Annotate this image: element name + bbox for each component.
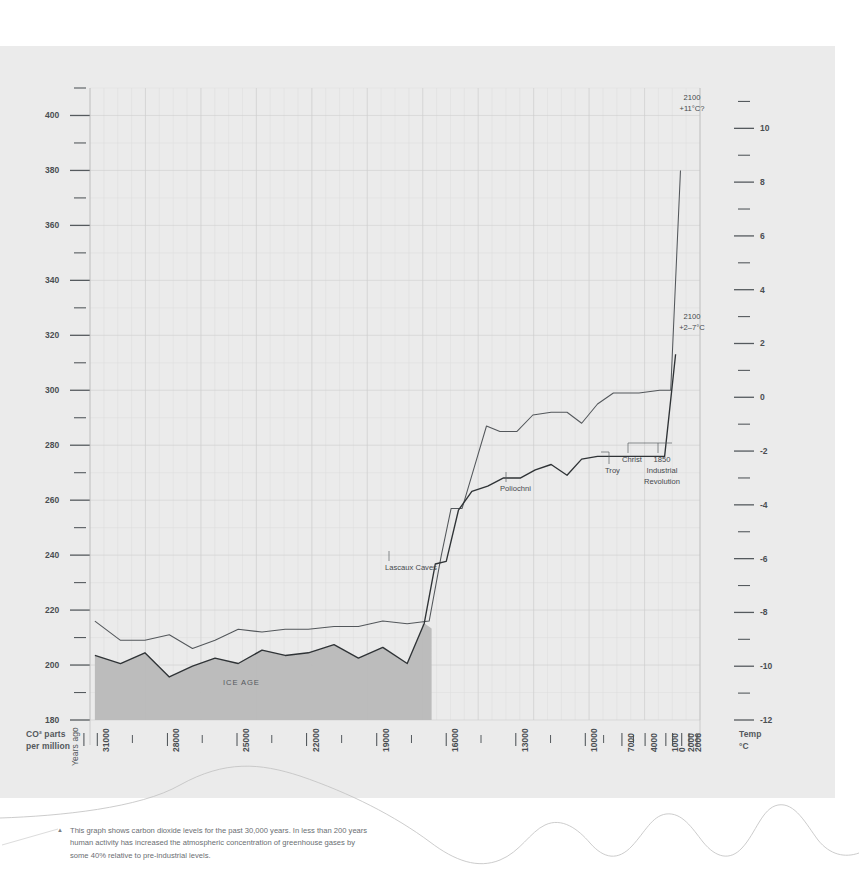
caption-leader-line <box>2 829 58 845</box>
x-axis-tick-label-31000: 31000 <box>101 728 111 752</box>
chart-figure: CO² parts per million Temp °C Years ago … <box>0 0 859 870</box>
y2-axis-tick-label-neg2: -2 <box>760 446 768 456</box>
ice-age-label: ICE AGE <box>223 678 260 687</box>
y-axis-tick-label-300: 300 <box>45 385 59 395</box>
y2-axis-tick-label-0: 0 <box>760 392 765 402</box>
series-co2-line <box>95 170 681 648</box>
annotation-industrial-line2: Revolution <box>634 477 690 487</box>
grid-minor <box>90 88 700 720</box>
x-axis-tick-label-19000: 19000 <box>381 728 391 752</box>
left-axis-title-line2: per million <box>26 741 70 752</box>
y2-axis-tick-label-neg6: -6 <box>760 554 768 564</box>
annotation-projection-high-year: 2100 <box>667 93 717 103</box>
x-axis-tick-label-4000: 4000 <box>649 733 659 752</box>
x-axis-tick-label-25000: 25000 <box>241 728 251 752</box>
y-axis-tick-label-380: 380 <box>45 165 59 175</box>
x-axis-tick-label-10000: 10000 <box>589 728 599 752</box>
annotation-projection-high-value: +11°C? <box>667 104 717 114</box>
y2-axis-tick-label-neg12: -12 <box>760 715 772 725</box>
y-axis-tick-label-280: 280 <box>45 440 59 450</box>
right-axis-title-line2: °C <box>739 741 749 752</box>
annotation-lascaux-caves: Lascaux Caves <box>385 563 437 573</box>
x-axis-title: Years ago <box>70 727 81 766</box>
figure-caption: This graph shows carbon dioxide levels f… <box>70 825 370 862</box>
y-axis-tick-label-180: 180 <box>45 715 59 725</box>
series-temp-line <box>95 354 676 677</box>
y-axis-tick-label-240: 240 <box>45 550 59 560</box>
caption-marker: ▲ <box>57 827 63 833</box>
annotation-industrial-line1: Industrial <box>634 466 690 476</box>
left-axis-title-line1: CO² parts <box>26 729 66 740</box>
y2-axis-tick-label-4: 4 <box>760 285 765 295</box>
y2-axis-tick-label-10: 10 <box>760 123 769 133</box>
annotation-troy: Troy <box>605 466 620 476</box>
x-axis-tick-label-13000: 13000 <box>520 728 530 752</box>
y2-axis-tick-label-neg4: -4 <box>760 500 768 510</box>
annotation-poliochni: Poliochni <box>500 484 531 494</box>
y-axis-tick-label-400: 400 <box>45 110 59 120</box>
x-axis-tick-label-2006: 2006 <box>693 733 703 752</box>
y-axis-tick-label-320: 320 <box>45 330 59 340</box>
x-axis-tick-label-28000: 28000 <box>171 728 181 752</box>
x-axis-tick-label-16000: 16000 <box>450 728 460 752</box>
y-axis-tick-label-340: 340 <box>45 275 59 285</box>
y-axis-tick-label-200: 200 <box>45 660 59 670</box>
y-axis-tick-label-260: 260 <box>45 495 59 505</box>
y-axis-tick-label-220: 220 <box>45 605 59 615</box>
x-axis-tick-label-7000: 7000 <box>626 733 636 752</box>
annotation-projection-low-year: 2100 <box>667 312 717 322</box>
y2-axis-tick-label-8: 8 <box>760 177 765 187</box>
right-axis-title-line1: Temp <box>739 729 761 740</box>
y-axis-tick-label-360: 360 <box>45 220 59 230</box>
y2-axis-tick-label-neg8: -8 <box>760 607 768 617</box>
annotation-projection-low-value: +2–7°C <box>667 323 717 333</box>
y2-axis-tick-label-neg10: -10 <box>760 661 772 671</box>
annotation-industrial-year: 1850 <box>634 455 690 465</box>
axis-ticks <box>70 88 754 746</box>
y2-axis-tick-label-2: 2 <box>760 338 765 348</box>
chart-svg <box>0 0 859 870</box>
x-axis-tick-label-22000: 22000 <box>311 728 321 752</box>
y2-axis-tick-label-6: 6 <box>760 231 765 241</box>
